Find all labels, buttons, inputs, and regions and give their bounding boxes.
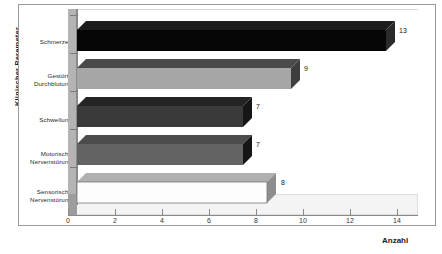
x-tick-label-6: 6 [207,217,211,224]
x-tick-label-4: 4 [160,217,164,224]
bar-sensorische-nervenstoerung[interactable] [68,173,293,203]
x-tick-label-10: 10 [299,217,307,224]
y-tick-label-line1: Sensorische [20,188,72,196]
y-tick-label-line1: Schmerzen [20,38,72,46]
plot-area: 13 9 7 [68,9,418,218]
x-axis-tick-0 [68,209,69,215]
y-tick-label-line1: Motorische [20,150,72,158]
x-axis-tick-14 [397,209,398,215]
x-tick-label-12: 12 [346,217,354,224]
bar-value-gestoerte-durchblutung: 9 [304,65,308,72]
bar-schmerzen[interactable] [68,21,398,51]
y-tick-label-line1: Schwellung [20,116,72,124]
y-tick-label-line1: Gestörte [20,72,72,80]
bar-series: 13 9 7 [68,9,418,205]
x-axis-tick-8 [256,209,257,215]
y-tick-label-line2: Nervenstörung [20,196,72,204]
y-tick-label-line2: Nervenstörung [20,158,72,166]
x-tick-label-2: 2 [113,217,117,224]
bar-value-motorische-nervenstoerung: 7 [256,141,260,148]
x-axis-tick-4 [162,209,163,215]
y-tick-label-sensorische-nervenstoerung: Sensorische Nervenstörung [20,188,72,203]
y-axis-tick-labels: Schmerzen Gestörte Durchblutung Schwellu… [20,10,72,214]
x-axis-tick-12 [350,209,351,215]
bar-chart: Klinischer Parameter Schmerzen Gestörte … [0,0,442,254]
bar-value-schmerzen: 13 [399,27,407,34]
y-tick-label-schmerzen: Schmerzen [20,38,72,46]
x-axis-title: Anzahl [382,236,408,245]
x-axis-tick-labels: 0 2 4 6 8 10 12 14 [68,209,418,227]
bar-value-sensorische-nervenstoerung: 8 [281,179,285,186]
y-tick-label-gestoerte-durchblutung: Gestörte Durchblutung [20,72,72,87]
x-axis-tick-6 [209,209,210,215]
x-tick-label-0: 0 [66,217,70,224]
bar-gestoerte-durchblutung[interactable] [68,59,308,89]
x-tick-label-14: 14 [393,217,401,224]
bar-motorische-nervenstoerung[interactable] [68,135,263,165]
x-axis-tick-10 [303,209,304,215]
x-tick-label-8: 8 [254,217,258,224]
bar-value-schwellung: 7 [256,103,260,110]
y-tick-label-schwellung: Schwellung [20,116,72,124]
y-tick-label-line2: Durchblutung [20,80,72,88]
y-tick-label-motorische-nervenstoerung: Motorische Nervenstörung [20,150,72,165]
x-axis-tick-2 [115,209,116,215]
bar-schwellung[interactable] [68,97,263,127]
